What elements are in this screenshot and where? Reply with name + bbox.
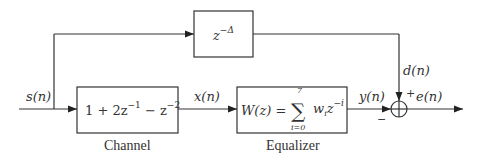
channel-term-1: 1 + 2z xyxy=(85,103,128,118)
error-signal-label: e(n) xyxy=(416,89,442,104)
delay-base: z xyxy=(212,28,220,43)
plus-sign: + xyxy=(406,87,415,100)
channel-input-arrow xyxy=(68,106,77,113)
weight-symbol: w xyxy=(313,101,324,116)
term-z: z xyxy=(326,101,334,116)
delay-input-arrow xyxy=(185,31,194,38)
channel-exp-1: −1 xyxy=(128,100,141,110)
equalizer-input-arrow xyxy=(228,106,237,113)
term-exponent: −i xyxy=(334,98,345,108)
channel-caption: Channel xyxy=(104,138,151,153)
block-diagram: s(n) z−Δ d(n) + 1 + 2z−1 − z−2 Channel x… xyxy=(0,0,478,162)
minus-sign: − xyxy=(377,113,386,126)
channel-output-label: x(n) xyxy=(194,89,220,104)
summer-plus-arrow xyxy=(396,92,403,101)
error-output-arrow xyxy=(454,106,463,113)
channel-term-2: − z xyxy=(141,103,167,118)
delay-exponent: −Δ xyxy=(220,25,234,35)
equalizer-caption: Equalizer xyxy=(266,138,320,153)
desired-signal-label: d(n) xyxy=(403,63,430,78)
equalizer-lhs: W(z) = xyxy=(241,103,286,118)
sum-symbol: ∑ xyxy=(291,99,306,123)
summer-minus-arrow xyxy=(382,106,391,113)
equalizer-output-label: y(n) xyxy=(358,89,385,104)
sum-lower-limit: i=0 xyxy=(291,123,305,132)
input-signal-label: s(n) xyxy=(26,89,51,104)
summing-junction xyxy=(391,101,407,117)
